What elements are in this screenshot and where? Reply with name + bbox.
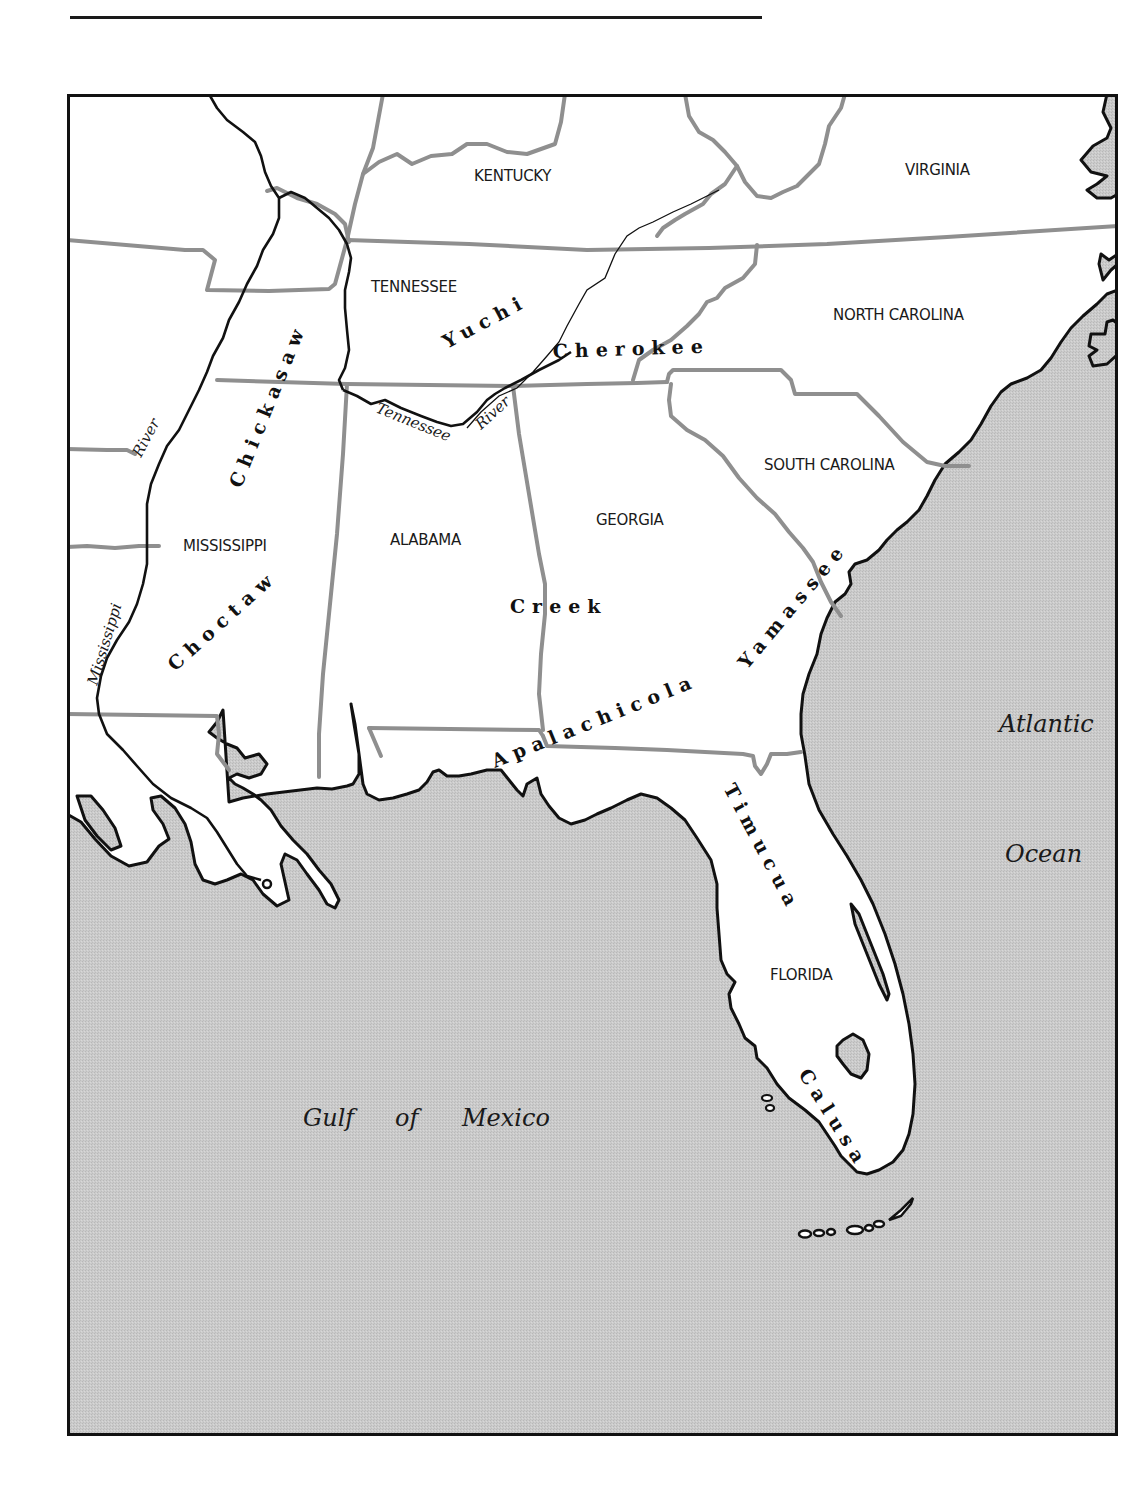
water-label-atlantic: Atlantic: [997, 710, 1094, 738]
state-label-north-carolina: NORTH CAROLINA: [833, 306, 965, 324]
state-label-mississippi: MISSISSIPPI: [183, 537, 267, 555]
state-label-alabama: ALABAMA: [390, 531, 462, 549]
state-label-south-carolina: SOUTH CAROLINA: [764, 456, 896, 474]
top-rule-divider: [70, 16, 762, 19]
map-canvas: KENTUCKY VIRGINIA TENNESSEE NORTH CAROLI…: [67, 94, 1118, 1436]
water-label-gulf: Gulf: [303, 1104, 358, 1132]
delta-islet: [263, 880, 271, 888]
state-label-virginia: VIRGINIA: [905, 161, 971, 179]
tribe-label-creek: Creek: [510, 595, 607, 617]
state-label-florida: FLORIDA: [770, 966, 834, 984]
southeast-tribes-map: KENTUCKY VIRGINIA TENNESSEE NORTH CAROLI…: [67, 94, 1118, 1436]
water-label-ocean: Ocean: [1005, 840, 1082, 868]
water-label-of: of: [395, 1104, 422, 1132]
state-label-georgia: GEORGIA: [596, 511, 665, 529]
water-label-mexico: Mexico: [461, 1104, 550, 1132]
state-label-kentucky: KENTUCKY: [474, 167, 552, 185]
state-label-tennessee: TENNESSEE: [370, 278, 457, 296]
